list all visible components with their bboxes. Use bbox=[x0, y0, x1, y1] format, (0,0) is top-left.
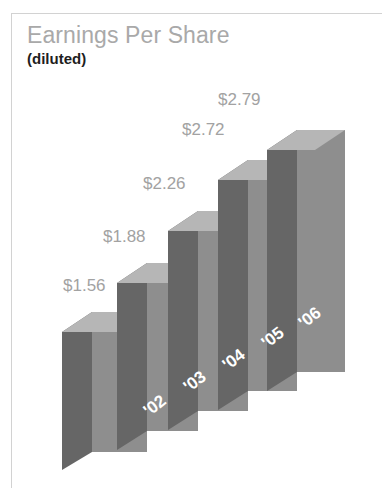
value-label-03: $1.88 bbox=[103, 227, 146, 246]
bar-side-face bbox=[267, 130, 297, 391]
bar-side-face bbox=[218, 160, 248, 410]
value-label-04: $2.26 bbox=[143, 174, 186, 193]
bar-front-face bbox=[297, 130, 345, 372]
bar-2006[interactable] bbox=[267, 130, 345, 391]
bar-side-face bbox=[168, 211, 198, 430]
eps-chart-figure: Earnings Per Share (diluted) $1.56'02$1.… bbox=[0, 0, 382, 488]
bar-side-face bbox=[117, 263, 147, 450]
value-label-02: $1.56 bbox=[63, 276, 106, 295]
value-label-06: $2.79 bbox=[218, 90, 261, 109]
bar-chart-plot bbox=[0, 0, 382, 488]
bar-chart-svg bbox=[0, 0, 382, 488]
bar-side-face bbox=[62, 312, 92, 470]
value-label-05: $2.72 bbox=[182, 120, 225, 139]
